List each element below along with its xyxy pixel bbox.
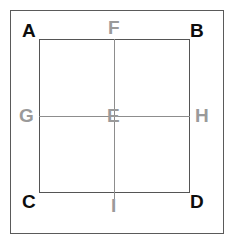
vertex-label-a: A [22,21,36,40]
midpoint-label-g: G [19,106,34,125]
midpoint-label-i: I [111,196,116,215]
vertex-label-c: C [22,192,36,211]
midpoint-label-h: H [195,106,209,125]
geometry-figure-canvas: A B C D F G H E I [0,0,236,250]
center-label-e: E [107,106,120,125]
vertex-label-b: B [190,21,204,40]
vertex-label-d: D [190,192,204,211]
midpoint-label-f: F [108,18,120,37]
